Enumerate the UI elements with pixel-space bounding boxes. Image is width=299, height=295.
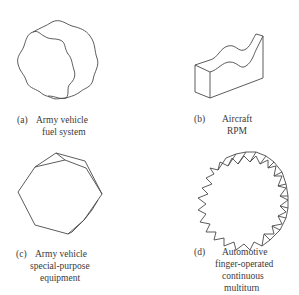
caption-d: (d) Automotive finger-operated continuou… bbox=[194, 246, 273, 294]
caption-c-line-3: equipment bbox=[40, 272, 90, 284]
caption-b: (b) Aircraft RPM bbox=[194, 113, 252, 137]
knob-a-drawing bbox=[18, 21, 98, 99]
knob-c-drawing bbox=[18, 153, 102, 234]
caption-a: (a) Army vehicle fuel system bbox=[17, 114, 88, 138]
caption-b-line-2: RPM bbox=[227, 125, 252, 137]
caption-d-line-4: multiturn bbox=[224, 282, 273, 294]
caption-c-line-1: Army vehicle bbox=[35, 248, 90, 260]
knob-b-drawing bbox=[195, 34, 263, 98]
caption-d-line-2: finger-operated bbox=[215, 258, 273, 270]
knob-d-drawing bbox=[198, 152, 288, 250]
caption-a-tag: (a) bbox=[17, 114, 28, 126]
caption-d-line-1: Automotive bbox=[222, 246, 273, 258]
caption-d-line-3: continuous bbox=[222, 270, 273, 282]
caption-b-line-1: Aircraft bbox=[222, 113, 252, 125]
caption-c: (c) Army vehicle special-purpose equipme… bbox=[16, 248, 90, 284]
caption-a-line-1: Army vehicle bbox=[36, 114, 88, 126]
caption-b-tag: (b) bbox=[194, 113, 205, 125]
caption-c-line-2: special-purpose bbox=[30, 260, 90, 272]
caption-a-line-2: fuel system bbox=[42, 126, 88, 138]
caption-c-tag: (c) bbox=[16, 248, 27, 260]
caption-d-tag: (d) bbox=[194, 246, 205, 258]
